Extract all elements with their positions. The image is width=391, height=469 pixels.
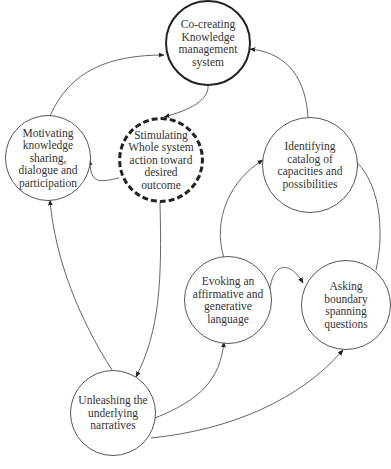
edge-evoking-to-identifying: [220, 160, 263, 258]
node-label: Stimulating Whole system action toward d…: [128, 129, 193, 192]
node-motivating: Motivating knowledge sharing, dialogue a…: [5, 115, 91, 201]
node-asking: Asking boundary spanning questions: [301, 260, 391, 350]
node-label: Unleashing the underlying narratives: [78, 394, 147, 432]
node-stimulating: Stimulating Whole system action toward d…: [118, 117, 204, 203]
node-label: Asking boundary spanning questions: [324, 280, 367, 330]
edge-stimulating-to-unleashing: [136, 203, 161, 377]
node-label: Evoking an affirmative and generative la…: [193, 275, 263, 325]
edge-unleashing-to-evoking: [155, 342, 224, 418]
edge-stimulating-to-motivating: [90, 160, 119, 181]
node-unleashing: Unleashing the underlying narratives: [70, 370, 156, 456]
edge-cocreating-to-stimulating: [164, 84, 208, 117]
edge-evoking-to-asking: [269, 267, 303, 300]
edge-identifying-to-cocreating: [250, 49, 308, 117]
node-identifying: Identifying catalog of capacities and po…: [262, 117, 358, 213]
edge-unleashing-to-asking: [151, 350, 343, 438]
edge-motivating-to-cocreating: [50, 55, 164, 116]
node-evoking: Evoking an affirmative and generative la…: [184, 256, 272, 344]
node-co-creating: Co-creating Knowledge management system: [165, 0, 251, 86]
edge-unleashing-to-motivating: [50, 200, 112, 370]
node-label: Co-creating Knowledge management system: [179, 18, 238, 68]
node-label: Identifying catalog of capacities and po…: [278, 140, 343, 190]
node-label: Motivating knowledge sharing, dialogue a…: [18, 127, 77, 190]
